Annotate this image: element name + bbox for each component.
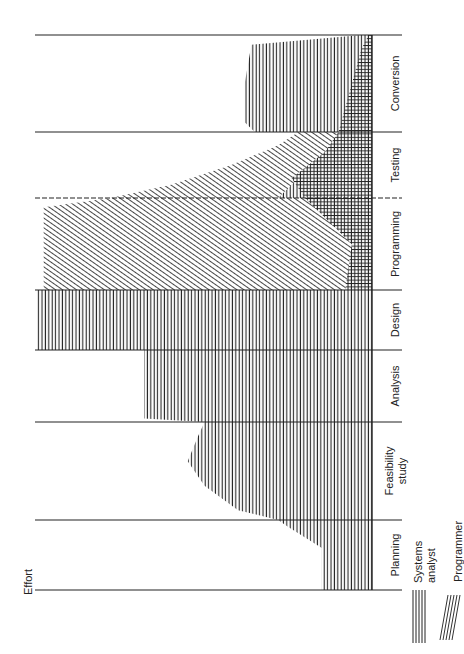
phase-label-line2: study: [396, 457, 408, 484]
legend-item-systems-analyst: Systems analyst: [412, 540, 437, 643]
phase-label: Planning: [389, 534, 401, 577]
phase-label: Conversion: [389, 56, 401, 112]
legend-label-systems: Systems: [412, 540, 424, 583]
phase-label: Programming: [389, 211, 401, 277]
systems-analyst-area: [37, 35, 372, 590]
effort-axis-label: Effort: [22, 569, 34, 595]
systems-analyst-swatch: [413, 590, 425, 643]
phase-labels: PlanningFeasibilitystudyAnalysisDesignPr…: [383, 56, 408, 577]
effort-by-phase-chart: PlanningFeasibilitystudyAnalysisDesignPr…: [0, 0, 464, 654]
legend: Systems analyst Programmer: [412, 521, 464, 643]
phase-label: Feasibility: [383, 446, 395, 495]
phase-label: Testing: [389, 148, 401, 183]
legend-label-analyst: analyst: [425, 548, 437, 583]
chart-areas: [37, 35, 372, 590]
legend-item-programmer: Programmer: [440, 521, 464, 640]
phase-label: Analysis: [389, 365, 401, 406]
legend-label-programmer: Programmer: [452, 521, 464, 582]
programmer-swatch: [440, 595, 460, 640]
phase-label: Design: [389, 303, 401, 337]
